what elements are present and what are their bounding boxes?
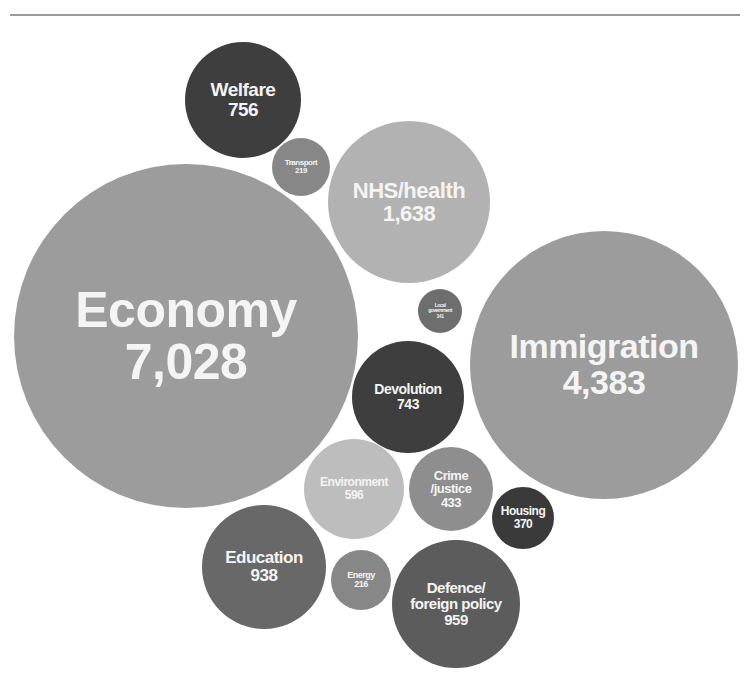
bubble-value: 219 xyxy=(295,167,307,175)
bubble-environment: Environment596 xyxy=(304,439,404,539)
bubble-label: Welfare xyxy=(211,80,276,100)
bubble-value: 216 xyxy=(354,580,368,589)
bubble-label: Defence/ foreign policy xyxy=(410,580,501,612)
bubble-crime-justice: Crime /justice433 xyxy=(409,447,493,531)
bubble-value: 756 xyxy=(228,100,258,120)
bubble-value: 743 xyxy=(397,397,419,412)
bubble-immigration: Immigration4,383 xyxy=(470,231,738,499)
bubble-transport: Transport219 xyxy=(272,138,330,196)
bubble-label: Devolution xyxy=(374,382,441,397)
bubble-nhs-health: NHS/health1,638 xyxy=(328,121,490,283)
bubble-welfare: Welfare756 xyxy=(185,42,301,158)
bubble-value: 370 xyxy=(514,518,533,531)
bubble-label: Crime /justice xyxy=(431,469,472,496)
bubble-economy: Economy7,028 xyxy=(14,164,358,508)
bubble-defence-foreign-policy: Defence/ foreign policy959 xyxy=(392,540,520,668)
bubble-value: 4,383 xyxy=(563,365,646,401)
bubble-value: 7,028 xyxy=(125,336,248,389)
bubble-energy: Energy216 xyxy=(331,550,391,610)
bubble-value: 141 xyxy=(437,314,444,319)
bubble-education: Education938 xyxy=(202,505,326,629)
bubble-value: 959 xyxy=(444,612,468,628)
bubble-label: NHS/health xyxy=(353,179,465,202)
bubble-chart: Economy7,028Immigration4,383NHS/health1,… xyxy=(0,0,750,674)
bubble-label: Immigration xyxy=(509,329,698,365)
bubble-value: 433 xyxy=(441,496,461,510)
bubble-housing: Housing370 xyxy=(492,487,554,549)
bubble-value: 1,638 xyxy=(383,202,436,225)
bubble-label: Economy xyxy=(75,284,297,337)
bubble-value: 596 xyxy=(345,489,364,502)
bubble-devolution: Devolution743 xyxy=(352,341,464,453)
bubble-local-government: Local government141 xyxy=(418,289,462,333)
bubble-label: Education xyxy=(225,549,303,567)
bubble-value: 938 xyxy=(251,567,278,585)
